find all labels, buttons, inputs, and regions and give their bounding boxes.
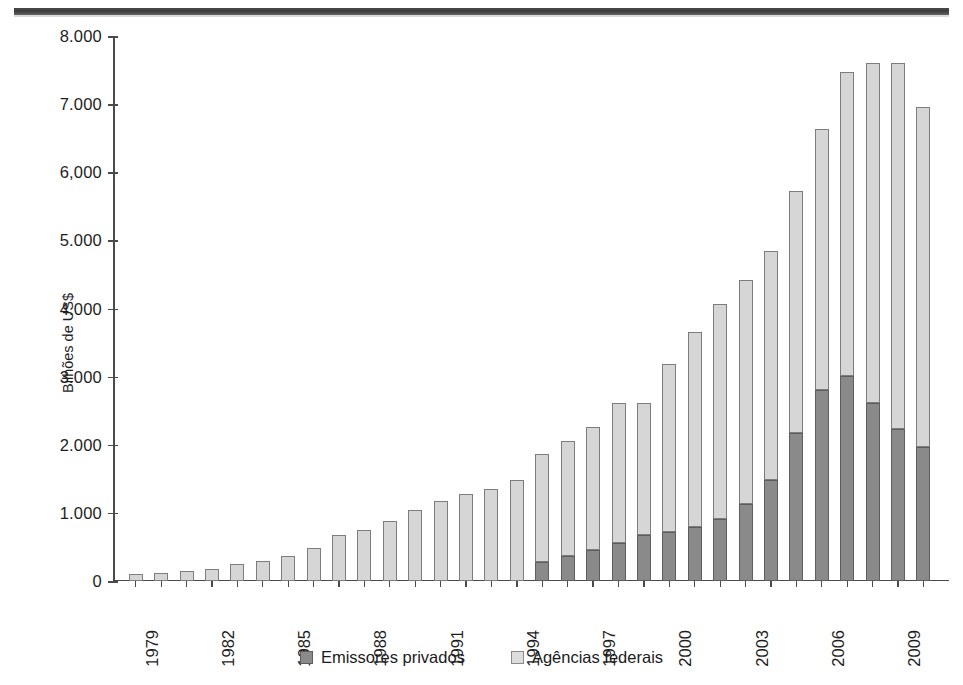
bar-segment-federal <box>357 530 371 581</box>
bar-segment-federal <box>383 521 397 581</box>
legend-item-private[interactable]: Emissores privados <box>300 648 465 667</box>
bar-segment-private <box>612 543 626 581</box>
bar-1994 <box>510 480 524 582</box>
x-tick <box>745 580 746 587</box>
x-tick <box>796 580 797 587</box>
x-tick <box>338 580 339 587</box>
bar-2008 <box>866 63 880 581</box>
chart-page: Bilhões de US$ 01.0002.0003.0004.0005.00… <box>0 0 963 685</box>
x-tick <box>288 580 289 587</box>
x-tick <box>389 580 390 587</box>
y-tick <box>108 513 118 515</box>
bar-2006 <box>815 129 829 581</box>
bar-segment-federal <box>256 561 270 581</box>
bar-segment-private <box>789 433 803 581</box>
bar-1980 <box>154 573 168 581</box>
x-tick <box>567 580 568 587</box>
bar-segment-private <box>688 527 702 582</box>
bar-segment-federal <box>866 63 880 403</box>
bar-segment-private <box>586 550 600 581</box>
x-tick <box>364 580 365 587</box>
bar-segment-federal <box>688 332 702 527</box>
bar-1995 <box>535 454 549 581</box>
x-tick <box>897 580 898 587</box>
x-tick <box>720 580 721 587</box>
legend-swatch-federal-icon <box>511 651 524 664</box>
bar-segment-federal <box>789 191 803 433</box>
bar-segment-federal <box>662 364 676 532</box>
bar-segment-private <box>662 532 676 581</box>
x-tick <box>415 580 416 587</box>
bar-1996 <box>561 441 575 581</box>
bar-1979 <box>129 574 143 581</box>
x-tick <box>491 580 492 587</box>
bar-segment-federal <box>434 501 448 581</box>
legend-label-private: Emissores privados <box>321 648 465 667</box>
y-tick-label: 1.000 <box>60 503 102 522</box>
bar-segment-federal <box>815 129 829 390</box>
bar-segment-private <box>764 480 778 581</box>
y-tick <box>108 377 118 379</box>
x-tick <box>465 580 466 587</box>
bar-segment-federal <box>637 403 651 534</box>
y-tick <box>108 581 118 583</box>
bar-segment-private <box>561 556 575 581</box>
bar-1990 <box>408 510 422 581</box>
legend-label-federal: Agências federais <box>532 648 663 667</box>
bar-1991 <box>434 501 448 581</box>
y-tick <box>108 445 118 447</box>
y-tick <box>108 104 118 106</box>
x-tick <box>592 580 593 587</box>
bar-2010 <box>916 107 930 581</box>
x-tick <box>161 580 162 587</box>
bar-2001 <box>688 332 702 581</box>
bar-1993 <box>484 489 498 581</box>
bar-segment-federal <box>459 494 473 581</box>
bar-2005 <box>789 191 803 581</box>
bar-segment-federal <box>180 571 194 581</box>
bar-1984 <box>256 561 270 581</box>
bar-1988 <box>357 530 371 581</box>
x-tick <box>211 580 212 587</box>
bar-segment-private <box>916 447 930 581</box>
x-tick <box>516 580 517 587</box>
bar-2003 <box>739 280 753 581</box>
y-tick-label: 2.000 <box>60 435 102 454</box>
x-tick <box>770 580 771 587</box>
y-tick-label: 3.000 <box>60 367 102 386</box>
x-tick <box>313 580 314 587</box>
bar-1997 <box>586 427 600 581</box>
y-tick <box>108 309 118 311</box>
bar-1982 <box>205 569 219 581</box>
bar-1986 <box>307 548 321 581</box>
x-tick <box>618 580 619 587</box>
bar-2002 <box>713 304 727 581</box>
x-tick <box>923 580 924 587</box>
bar-segment-private <box>866 403 880 581</box>
bar-segment-federal <box>739 280 753 504</box>
bar-segment-private <box>840 376 854 581</box>
x-tick <box>186 580 187 587</box>
bar-segment-federal <box>205 569 219 581</box>
bar-segment-federal <box>332 535 346 581</box>
bar-segment-private <box>739 504 753 581</box>
y-tick <box>108 240 118 242</box>
y-tick-label: 7.000 <box>60 95 102 114</box>
chart-legend: Emissores privados Agências federais <box>0 648 963 667</box>
bar-segment-private <box>535 562 549 581</box>
bar-segment-federal <box>586 427 600 550</box>
x-tick <box>872 580 873 587</box>
bar-segment-federal <box>230 564 244 581</box>
x-tick <box>237 580 238 587</box>
legend-item-federal[interactable]: Agências federais <box>511 648 663 667</box>
y-tick-label: 6,000 <box>60 163 102 182</box>
bar-chart-plot-area: 01.0002.0003.0004.0005.0006,0007.0008.00… <box>113 36 949 581</box>
bar-segment-federal <box>612 403 626 543</box>
y-tick <box>108 172 118 174</box>
bar-1985 <box>281 556 295 581</box>
bar-segment-federal <box>510 480 524 582</box>
x-tick <box>694 580 695 587</box>
bar-segment-federal <box>307 548 321 581</box>
bar-2007 <box>840 72 854 581</box>
x-tick <box>669 580 670 587</box>
